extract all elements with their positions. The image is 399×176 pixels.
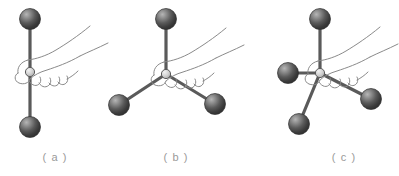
panel-a-label: ( a ) [42,151,67,163]
sphere-atom-icon [20,9,41,30]
sphere-atom-icon [205,94,226,115]
sphere-atom-icon [361,89,382,110]
sphere-atom-icon [310,9,331,30]
panel-c: ( c ) [278,9,399,164]
sphere-atom-icon [156,9,177,30]
hub-joint-icon [315,68,324,77]
atom-group-c [278,9,382,135]
panel-c-label: ( c ) [332,151,356,163]
molecule-figure-svg: ( a ) ( b ) [0,0,399,176]
bond-group-c [288,19,371,124]
sphere-atom-icon [278,63,299,84]
panel-b-label: ( b ) [163,151,188,163]
hub-joint-icon [161,69,170,78]
sphere-atom-icon [20,117,41,138]
sphere-atom-icon [289,114,310,135]
panel-b: ( b ) [109,9,245,164]
figure-container: ( a ) ( b ) [0,0,399,176]
hub-joint-icon [25,67,34,76]
panel-a: ( a ) [15,9,108,164]
sphere-atom-icon [109,95,130,116]
